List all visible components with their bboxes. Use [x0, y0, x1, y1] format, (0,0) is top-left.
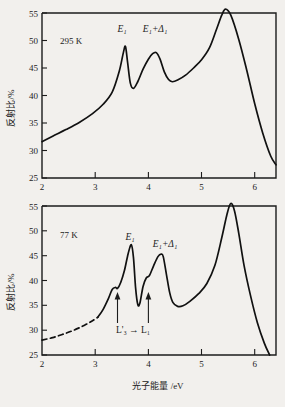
x-tick-label: 6	[252, 182, 257, 192]
y-tick-label: 30	[29, 146, 39, 156]
y-axis-title-295k: 反射比/%	[5, 89, 16, 127]
y-tick-label: 40	[29, 91, 39, 101]
y-axis-title-77k: 反射比/%	[5, 273, 16, 311]
arrow-head-icon	[146, 292, 152, 300]
x-tick-label: 2	[40, 359, 45, 369]
arrow-head-icon	[115, 292, 121, 300]
plot-frame-77k	[42, 206, 276, 355]
chart-svg-77k: 25 30 35 40 45 50 55 2 3 4 5 6	[0, 200, 285, 407]
x-axis-tick-labels-77k: 2 3 4 5 6	[40, 359, 258, 369]
condition-label-77k: 77 K	[60, 230, 78, 240]
chart-panel-77k: 25 30 35 40 45 50 55 2 3 4 5 6	[0, 200, 285, 407]
y-tick-label: 35	[29, 300, 39, 310]
transition-arrows-77k	[115, 292, 152, 323]
chart-panel-295k: 25 30 35 40 45 50 55 2 3 4 5 6	[0, 0, 285, 200]
y-axis-tick-labels-77k: 25 30 35 40 45 50 55	[29, 202, 39, 361]
x-tick-label: 5	[199, 359, 204, 369]
y-tick-label: 35	[29, 118, 39, 128]
y-tick-label: 25	[29, 173, 39, 183]
condition-label-295k: 295 K	[60, 36, 83, 46]
x-axis-tick-labels-295k: 2 3 4 5 6	[40, 182, 258, 192]
reflectance-spectra-figure: 25 30 35 40 45 50 55 2 3 4 5 6	[0, 0, 285, 407]
y-tick-label: 25	[29, 350, 39, 360]
chart-svg-295k: 25 30 35 40 45 50 55 2 3 4 5 6	[0, 0, 285, 200]
y-tick-label: 55	[29, 9, 39, 19]
y-tick-label: 55	[29, 202, 39, 212]
y-axis-ticks-77k	[42, 206, 47, 355]
x-tick-label: 5	[199, 182, 204, 192]
x-axis-ticks-295k	[95, 172, 255, 178]
x-axis-ticks-77k	[95, 349, 255, 355]
peak-label-e1d1-295k: E₁+Δ₁	[142, 24, 167, 34]
y-tick-label: 30	[29, 325, 39, 335]
y-axis-tick-labels-295k: 25 30 35 40 45 50 55	[29, 9, 39, 184]
y-axis-ticks-295k	[42, 13, 47, 178]
peak-label-e1-77k: E₁	[124, 232, 134, 242]
x-tick-label: 3	[93, 359, 98, 369]
y-tick-label: 50	[29, 36, 39, 46]
peak-label-e1d1-77k: E₁+Δ₁	[152, 239, 177, 249]
x-tick-label: 6	[252, 359, 257, 369]
y-tick-label: 50	[29, 226, 39, 236]
x-tick-label: 2	[40, 182, 45, 192]
x-tick-label: 4	[146, 359, 151, 369]
peak-label-e1-295k: E₁	[116, 24, 126, 34]
transition-label-77k: L'₃ → L₁	[116, 325, 150, 335]
data-curve-77k-extrapolated	[42, 317, 98, 340]
y-tick-label: 40	[29, 276, 39, 286]
x-tick-label: 3	[93, 182, 98, 192]
x-tick-label: 4	[146, 182, 151, 192]
y-tick-label: 45	[29, 63, 39, 73]
x-axis-title-77k: 光子能量 /eV	[132, 380, 184, 391]
y-tick-label: 45	[29, 251, 39, 261]
